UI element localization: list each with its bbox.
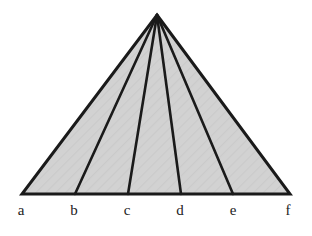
vertex-label-e: e — [230, 203, 237, 218]
triangle-fill — [22, 15, 290, 194]
triangle-figure: a b c d e f — [0, 0, 312, 236]
vertex-label-b: b — [70, 203, 78, 218]
vertex-label-f: f — [286, 203, 291, 218]
vertex-label-c: c — [124, 203, 131, 218]
vertex-label-d: d — [176, 203, 184, 218]
triangle-diagram-svg — [0, 0, 312, 236]
vertex-label-a: a — [18, 203, 25, 218]
